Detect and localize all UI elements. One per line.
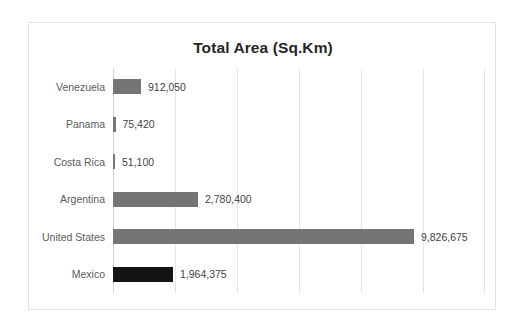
bar-venezuela[interactable]: [113, 79, 141, 94]
bar-costa-rica[interactable]: [113, 154, 115, 169]
category-label-mexico: Mexico: [0, 268, 105, 280]
bar-mexico[interactable]: [113, 267, 173, 282]
value-label-united-states: 9,826,675: [421, 231, 468, 243]
category-label-costa-rica: Costa Rica: [0, 156, 105, 168]
value-label-costa-rica: 51,100: [122, 156, 154, 168]
category-label-venezuela: Venezuela: [0, 81, 105, 93]
value-label-argentina: 2,780,400: [205, 193, 252, 205]
bar-row-argentina: Argentina 2,780,400: [113, 181, 485, 219]
bar-row-united-states: United States 9,826,675: [113, 218, 485, 256]
plot-area: Venezuela 912,050 Panama 75,420 Costa Ri…: [113, 68, 485, 293]
bar-row-mexico: Mexico 1,964,375: [113, 256, 485, 294]
category-label-panama: Panama: [0, 118, 105, 130]
category-label-united-states: United States: [0, 231, 105, 243]
bar-argentina[interactable]: [113, 192, 198, 207]
chart-title: Total Area (Sq.Km): [29, 39, 497, 57]
value-label-mexico: 1,964,375: [180, 268, 227, 280]
category-label-argentina: Argentina: [0, 193, 105, 205]
bar-rows: Venezuela 912,050 Panama 75,420 Costa Ri…: [113, 68, 485, 293]
bar-united-states[interactable]: [113, 229, 414, 244]
value-label-panama: 75,420: [123, 118, 155, 130]
bar-row-venezuela: Venezuela 912,050: [113, 68, 485, 106]
value-label-venezuela: 912,050: [148, 81, 186, 93]
bar-panama[interactable]: [113, 117, 116, 132]
bar-row-costa-rica: Costa Rica 51,100: [113, 143, 485, 181]
bar-row-panama: Panama 75,420: [113, 106, 485, 144]
chart-frame: Total Area (Sq.Km) Venezuela 912,050 Pan…: [28, 22, 496, 310]
